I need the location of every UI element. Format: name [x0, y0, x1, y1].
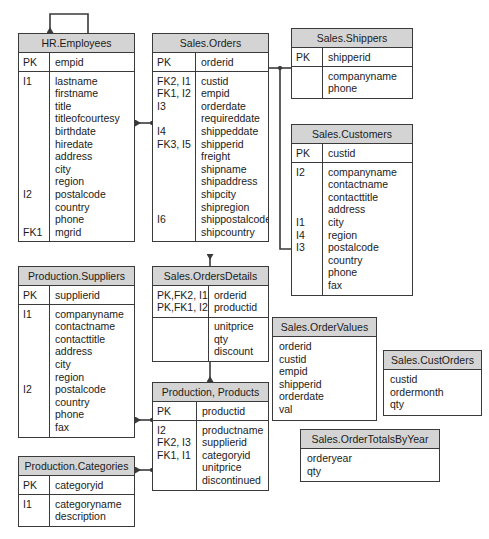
key-column: PK — [292, 144, 323, 162]
entity-sales-orders[interactable]: Sales.Orders PK orderid FK2, I1 FK1, I2 … — [152, 33, 269, 242]
attribute-column: companyname phone — [323, 67, 412, 98]
attribute-column: categoryname description — [50, 495, 134, 526]
entity-key-section: PK supplierid — [19, 286, 134, 304]
attribute-column: orderid custid empid shipperid orderdate… — [273, 337, 376, 420]
entity-sales-shippers[interactable]: Sales.Shippers PK shipperid companyname … — [291, 28, 413, 99]
entity-attr-section: I2 FK2, I3 FK1, I1 productname supplieri… — [153, 420, 268, 489]
entity-title: Production.Suppliers — [19, 267, 134, 286]
key-column: PK — [19, 286, 50, 304]
entity-hr-employees[interactable]: HR.Employees PK empid I1 I2 FK1 lastname… — [18, 33, 135, 242]
entity-sales-custorders[interactable]: Sales.CustOrders custid ordermonth qty — [383, 350, 482, 416]
key-column: PK — [19, 53, 50, 71]
attribute-column: shipperid — [323, 48, 412, 66]
entity-title: Sales.OrdersDetails — [153, 267, 268, 286]
key-column: I1 I2 — [19, 305, 50, 436]
entity-key-section: PK productid — [153, 402, 268, 420]
entity-attr-section: I1 categoryname description — [19, 494, 134, 526]
attribute-column: supplierid — [50, 286, 134, 304]
entity-sales-ordertotalsbyyear[interactable]: Sales.OrderTotalsByYear orderyear qty — [300, 429, 440, 482]
entity-title: Sales.Customers — [292, 125, 412, 144]
key-column — [153, 318, 209, 361]
entity-attr-section: FK2, I1 FK1, I2 I3 I4 FK3, I5 I6 custid … — [153, 71, 268, 241]
entity-key-section: PK custid — [292, 144, 412, 162]
key-column — [292, 67, 323, 98]
entity-title: Production.Categories — [19, 457, 134, 476]
entity-title: Production, Products — [153, 383, 268, 402]
attribute-column: lastname firstname title titleofcourtesy… — [50, 72, 134, 241]
entity-sales-customers[interactable]: Sales.Customers PK custid I2 I1 I4 I3 co… — [291, 124, 413, 296]
attribute-column: empid — [50, 53, 134, 71]
entity-title: Sales.CustOrders — [384, 351, 481, 370]
entity-title: Sales.Orders — [153, 34, 268, 53]
entity-title: Sales.OrderValues — [273, 318, 376, 337]
key-column: PK — [153, 53, 196, 71]
entity-production-suppliers[interactable]: Production.Suppliers PK supplierid I1 I2… — [18, 266, 135, 438]
attribute-column: productid — [197, 402, 268, 420]
attribute-column: categoryid — [50, 476, 134, 494]
key-column: I1 — [19, 495, 50, 526]
attribute-column: orderid productid — [209, 286, 268, 317]
entity-key-section: PK shipperid — [292, 48, 412, 66]
key-column: I2 I1 I4 I3 — [292, 163, 323, 294]
entity-key-section: PK categoryid — [19, 476, 134, 494]
entity-attr-section: unitprice qty discount — [153, 317, 268, 361]
er-diagram-canvas: HR.Employees PK empid I1 I2 FK1 lastname… — [0, 0, 489, 539]
key-column: I1 I2 FK1 — [19, 72, 50, 241]
attribute-column: companyname contactname contacttitle add… — [50, 305, 134, 436]
entity-attr-section: I1 I2 companyname contactname contacttit… — [19, 304, 134, 436]
attribute-column: orderid — [196, 53, 268, 71]
entity-production-products[interactable]: Production, Products PK productid I2 FK2… — [152, 382, 269, 491]
key-column: I2 FK2, I3 FK1, I1 — [153, 421, 197, 489]
entity-attr-section: I2 I1 I4 I3 companyname contactname cont… — [292, 162, 412, 294]
entity-sales-ordervalues[interactable]: Sales.OrderValues orderid custid empid s… — [272, 317, 377, 421]
connector-employees-self — [50, 14, 88, 33]
connector-orders-customers — [280, 68, 291, 249]
key-column: PK — [19, 476, 50, 494]
attribute-column: custid — [323, 144, 412, 162]
attribute-column: productname supplierid categoryid unitpr… — [197, 421, 268, 489]
attribute-column: orderyear qty — [301, 449, 439, 481]
key-column: PK,FK2, I1 PK,FK1, I2 — [153, 286, 209, 317]
entity-attr-section: I1 I2 FK1 lastname firstname title title… — [19, 71, 134, 241]
entity-attr-section: companyname phone — [292, 66, 412, 98]
entity-production-categories[interactable]: Production.Categories PK categoryid I1 c… — [18, 456, 135, 527]
entity-title: Sales.Shippers — [292, 29, 412, 48]
entity-title: Sales.OrderTotalsByYear — [301, 430, 439, 449]
key-column: FK2, I1 FK1, I2 I3 I4 FK3, I5 I6 — [153, 72, 196, 241]
attribute-column: companyname contactname contacttitle add… — [323, 163, 412, 294]
key-column: PK — [153, 402, 197, 420]
entity-key-section: PK empid — [19, 53, 134, 71]
entity-sales-ordersdetails[interactable]: Sales.OrdersDetails PK,FK2, I1 PK,FK1, I… — [152, 266, 269, 362]
entity-key-section: PK,FK2, I1 PK,FK1, I2 orderid productid — [153, 286, 268, 317]
entity-key-section: PK orderid — [153, 53, 268, 71]
attribute-column: custid empid orderdate requireddate ship… — [196, 72, 268, 241]
attribute-column: unitprice qty discount — [209, 318, 268, 361]
key-column: PK — [292, 48, 323, 66]
entity-title: HR.Employees — [19, 34, 134, 53]
attribute-column: custid ordermonth qty — [384, 370, 481, 415]
